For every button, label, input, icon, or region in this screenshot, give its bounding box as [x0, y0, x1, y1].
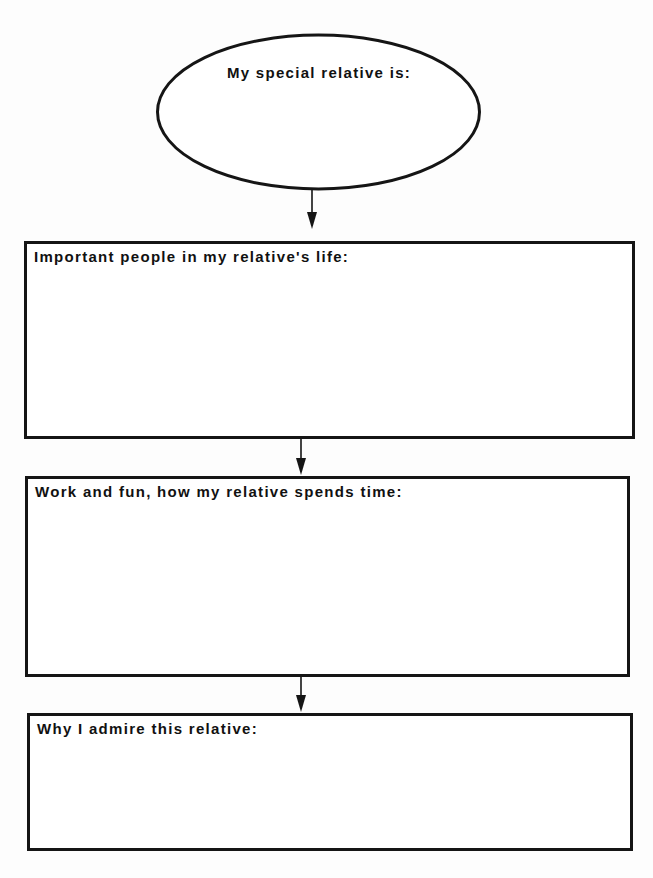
important-people-writing-area[interactable] — [33, 274, 626, 430]
arrow-down-icon — [307, 189, 317, 229]
arrow-down-icon — [296, 439, 306, 475]
why-admire-label: Why I admire this relative: — [37, 720, 258, 737]
why-admire-box: Why I admire this relative: — [27, 713, 633, 851]
special-relative-heading: My special relative is: — [157, 64, 481, 81]
work-and-fun-label: Work and fun, how my relative spends tim… — [35, 483, 403, 500]
important-people-box: Important people in my relative's life: — [24, 241, 635, 439]
arrow-down-icon — [296, 677, 306, 712]
important-people-label: Important people in my relative's life: — [34, 248, 349, 265]
work-and-fun-box: Work and fun, how my relative spends tim… — [25, 476, 630, 677]
worksheet-page: My special relative is: Important people… — [0, 0, 653, 878]
why-admire-writing-area[interactable] — [36, 746, 624, 842]
relative-name-ellipse — [158, 35, 480, 189]
work-and-fun-writing-area[interactable] — [34, 509, 621, 668]
